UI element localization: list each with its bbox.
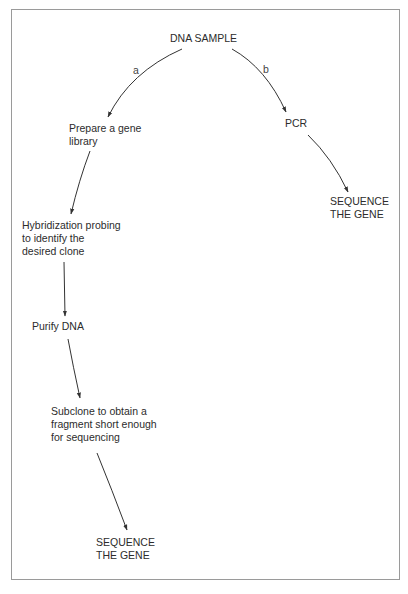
- arrow-root-to-library: [108, 49, 182, 117]
- arrow-library-to-hybridization: [71, 151, 90, 214]
- node-prepare-library: Prepare a gene library: [69, 122, 141, 148]
- arrow-pcr-to-sequence: [308, 135, 348, 192]
- arrow-root-to-pcr: [232, 49, 286, 112]
- arrow-subclone-to-sequence: [97, 453, 127, 530]
- node-sequence-gene-b: SEQUENCE THE GENE: [330, 195, 389, 221]
- node-subclone: Subclone to obtain a fragment short enou…: [51, 405, 157, 444]
- node-purify-dna: Purify DNA: [32, 320, 84, 333]
- branch-label-b: b: [263, 63, 269, 75]
- node-dna-sample: DNA SAMPLE: [170, 32, 237, 45]
- node-sequence-gene-a: SEQUENCE THE GENE: [96, 536, 155, 562]
- node-hybridization: Hybridization probing to identify the de…: [22, 219, 121, 258]
- arrow-purify-to-subclone: [68, 339, 80, 398]
- arrow-hybridization-to-purify: [64, 262, 65, 316]
- node-pcr: PCR: [285, 117, 307, 130]
- flow-arrows: [0, 0, 408, 594]
- branch-label-a: a: [133, 64, 139, 76]
